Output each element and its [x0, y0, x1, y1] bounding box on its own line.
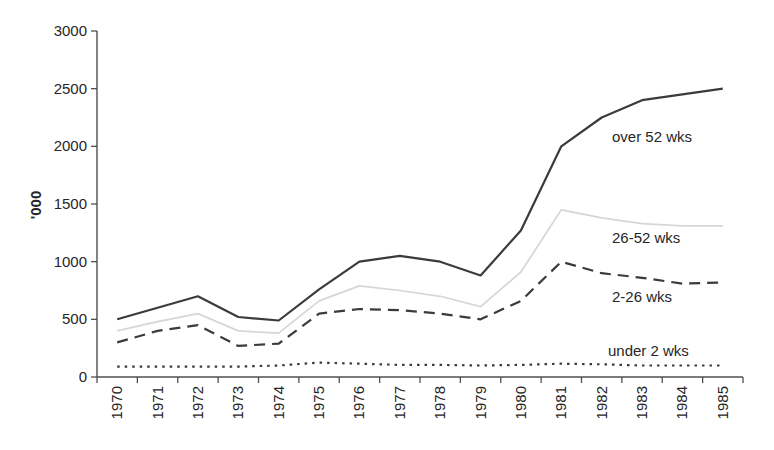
- y-axis-unit-label: '000: [27, 191, 44, 220]
- y-axis-tick-label: 0: [79, 368, 87, 385]
- y-axis-tick-label: 1500: [54, 195, 87, 212]
- x-axis-year-label: 1973: [229, 386, 246, 419]
- x-axis-year-label: 1980: [512, 386, 529, 419]
- y-axis-tick-label: 500: [62, 310, 87, 327]
- y-axis-tick-label: 1000: [54, 253, 87, 270]
- x-axis-year-label: 1971: [149, 386, 166, 419]
- unemployment-duration-line-chart: 0500100015002000250030001970197119721973…: [0, 0, 774, 450]
- y-axis-tick-label: 2500: [54, 80, 87, 97]
- x-axis-year-label: 1983: [633, 386, 650, 419]
- x-axis-year-label: 1981: [552, 386, 569, 419]
- series-label-2-26-wks: 2-26 wks: [612, 288, 672, 305]
- x-axis-year-label: 1977: [391, 386, 408, 419]
- x-axis-year-label: 1975: [310, 386, 327, 419]
- x-axis-year-label: 1985: [714, 386, 731, 419]
- chart-canvas: 0500100015002000250030001970197119721973…: [0, 0, 774, 450]
- x-axis-year-label: 1976: [350, 386, 367, 419]
- y-axis-tick-label: 2000: [54, 137, 87, 154]
- x-axis-year-label: 1984: [673, 386, 690, 419]
- series-line-under-2-wks: [117, 363, 723, 367]
- x-axis-year-label: 1972: [189, 386, 206, 419]
- series-label-over-52-wks: over 52 wks: [612, 128, 692, 145]
- x-axis-year-label: 1970: [108, 386, 125, 419]
- x-axis-year-label: 1974: [270, 386, 287, 419]
- series-line-over-52-wks: [117, 89, 723, 321]
- x-axis-year-label: 1978: [431, 386, 448, 419]
- x-axis-year-label: 1979: [472, 386, 489, 419]
- x-axis-year-label: 1982: [593, 386, 610, 419]
- y-axis-tick-label: 3000: [54, 22, 87, 39]
- series-label-26-52-wks: 26-52 wks: [612, 229, 680, 246]
- series-label-under-2-wks: under 2 wks: [608, 342, 689, 359]
